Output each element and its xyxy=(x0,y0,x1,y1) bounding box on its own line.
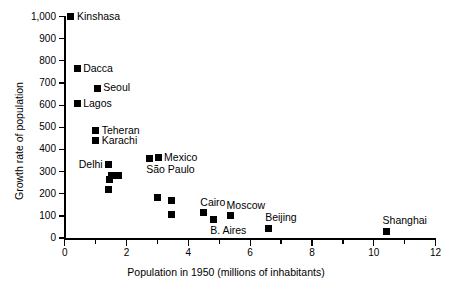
data-point-label: Seoul xyxy=(103,82,130,93)
y-tick-label: 600 xyxy=(0,99,56,110)
y-axis-title: Growth rate of population xyxy=(13,82,25,200)
y-tick-mark xyxy=(59,149,64,150)
x-tick-label: 2 xyxy=(107,247,147,259)
scatter-chart: 01002003004005006007008009001,000 024681… xyxy=(0,0,452,289)
x-axis-title: Population in 1950 (millions of inhabita… xyxy=(0,266,452,278)
x-tick-mark xyxy=(373,239,374,246)
x-tick-label: 6 xyxy=(230,247,270,259)
data-point-label: Karachi xyxy=(102,135,138,146)
y-tick-mark xyxy=(59,193,64,194)
data-point xyxy=(210,216,217,223)
y-tick-mark xyxy=(59,127,64,128)
data-point-label: Beijing xyxy=(265,212,297,223)
data-point xyxy=(146,155,153,162)
y-tick-mark xyxy=(59,215,64,216)
x-tick-mark xyxy=(311,239,312,246)
y-tick-label: 300 xyxy=(0,166,56,177)
data-point-label: Delhi xyxy=(79,159,103,170)
data-point xyxy=(94,85,101,92)
x-tick-mark xyxy=(64,239,65,246)
x-minor-tick-mark xyxy=(404,239,405,244)
data-point-label: Mexico xyxy=(164,152,197,163)
y-tick-mark xyxy=(59,171,64,172)
data-point xyxy=(92,137,99,144)
data-point-label: Cairo xyxy=(200,197,225,208)
x-tick-label: 8 xyxy=(292,247,332,259)
y-tick-label: 500 xyxy=(0,121,56,132)
y-tick-label: 700 xyxy=(0,77,56,88)
data-point xyxy=(115,172,122,179)
x-tick-mark xyxy=(250,239,251,246)
data-point xyxy=(168,197,175,204)
data-point-label: Moscow xyxy=(227,200,266,211)
x-minor-tick-mark xyxy=(280,239,281,244)
x-tick-label: 12 xyxy=(416,247,452,259)
x-minor-tick-mark xyxy=(219,239,220,244)
data-point-label: B. Aires xyxy=(210,225,246,236)
x-minor-tick-mark xyxy=(95,239,96,244)
data-point-label: Lagos xyxy=(83,98,112,109)
y-tick-label: 800 xyxy=(0,55,56,66)
y-tick-label: 200 xyxy=(0,188,56,199)
data-point xyxy=(383,228,390,235)
data-point xyxy=(105,186,112,193)
data-point xyxy=(106,176,113,183)
data-point xyxy=(67,13,74,20)
y-tick-label: 100 xyxy=(0,210,56,221)
x-tick-mark xyxy=(435,239,436,246)
y-axis-line xyxy=(64,16,66,239)
y-tick-mark xyxy=(59,38,64,39)
y-tick-label: 900 xyxy=(0,33,56,44)
x-minor-tick-mark xyxy=(342,239,343,244)
y-tick-label: 1,000 xyxy=(0,11,56,22)
x-minor-tick-mark xyxy=(157,239,158,244)
x-tick-mark xyxy=(188,239,189,246)
x-tick-label: 10 xyxy=(354,247,394,259)
y-tick-mark xyxy=(59,82,64,83)
x-tick-label: 0 xyxy=(45,247,85,259)
data-point xyxy=(74,65,81,72)
data-point xyxy=(155,154,162,161)
data-point-label: Kinshasa xyxy=(77,11,120,22)
y-tick-mark xyxy=(59,16,64,17)
data-point xyxy=(265,225,272,232)
data-point xyxy=(92,127,99,134)
data-point xyxy=(105,161,112,168)
y-tick-mark xyxy=(59,60,64,61)
data-point xyxy=(200,209,207,216)
data-point-label: Dacca xyxy=(83,63,113,74)
data-point-label: São Paulo xyxy=(146,164,194,175)
y-tick-label: 0 xyxy=(0,232,56,243)
data-point xyxy=(74,100,81,107)
y-tick-mark xyxy=(59,105,64,106)
data-point-label: Shanghai xyxy=(383,215,427,226)
data-point xyxy=(168,211,175,218)
x-tick-mark xyxy=(126,239,127,246)
x-tick-label: 4 xyxy=(168,247,208,259)
data-point xyxy=(227,212,234,219)
y-tick-label: 400 xyxy=(0,143,56,154)
data-point xyxy=(154,194,161,201)
